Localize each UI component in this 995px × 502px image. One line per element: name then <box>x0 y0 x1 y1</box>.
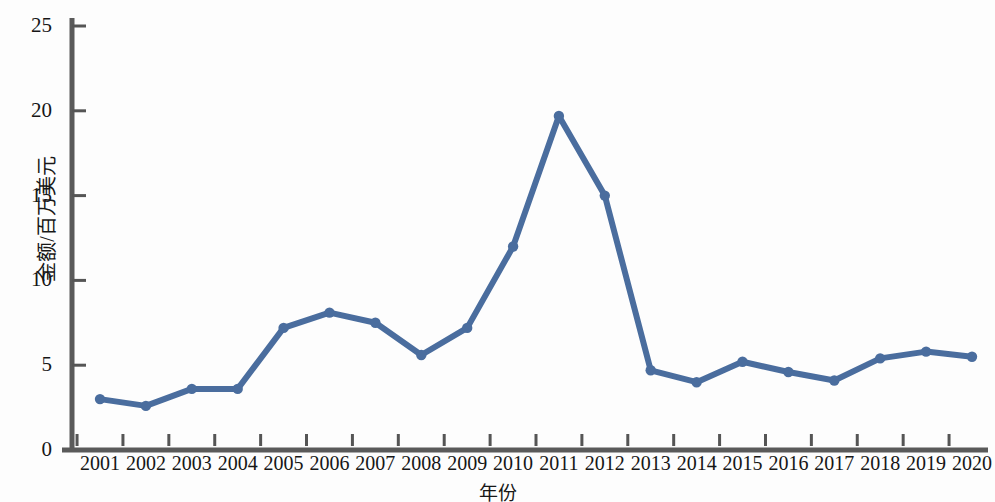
line-chart: 金额/百万美元 0510152025 200120022003200420052… <box>0 0 995 502</box>
x-axis-tick-label: 2020 <box>952 452 992 474</box>
x-axis-tick-label: 2004 <box>218 452 258 474</box>
data-point <box>737 357 747 367</box>
data-point <box>875 353 885 363</box>
x-axis-tick-label: 2009 <box>447 452 487 474</box>
x-axis-tick-label: 2018 <box>860 452 900 474</box>
data-point <box>921 346 931 356</box>
data-line <box>100 116 972 406</box>
data-point <box>691 377 701 387</box>
data-point <box>829 375 839 385</box>
data-point <box>187 384 197 394</box>
x-axis-tick-label: 2002 <box>126 452 166 474</box>
x-axis-tick-label: 2019 <box>906 452 946 474</box>
data-point <box>141 401 151 411</box>
data-markers <box>95 111 977 411</box>
data-point <box>508 241 518 251</box>
x-axis-tick-label: 2016 <box>768 452 808 474</box>
data-point <box>646 365 656 375</box>
data-point <box>600 190 610 200</box>
x-axis-title: 年份 <box>0 478 995 502</box>
x-axis-tick-label: 2008 <box>401 452 441 474</box>
plot-area <box>0 0 995 502</box>
x-axis-tick-label: 2014 <box>677 452 717 474</box>
x-axis-tick-label: 2005 <box>264 452 304 474</box>
data-point <box>967 352 977 362</box>
x-axis-tick-labels: 2001200220032004200520062007200820092010… <box>0 452 995 480</box>
x-axis-tick-label: 2007 <box>355 452 395 474</box>
x-axis-tick-label: 2003 <box>172 452 212 474</box>
x-axis-tick-label: 2011 <box>539 452 578 474</box>
data-point <box>462 323 472 333</box>
x-axis-tick-label: 2013 <box>631 452 671 474</box>
data-point <box>416 350 426 360</box>
x-axis-tick-label: 2017 <box>814 452 854 474</box>
x-axis-ticks <box>77 434 949 446</box>
data-point <box>233 384 243 394</box>
x-axis-tick-label: 2001 <box>80 452 120 474</box>
axes <box>62 18 988 450</box>
data-point <box>95 394 105 404</box>
x-axis-tick-label: 2010 <box>493 452 533 474</box>
x-axis-tick-label: 2006 <box>309 452 349 474</box>
x-axis-tick-label: 2015 <box>723 452 763 474</box>
data-point <box>324 307 334 317</box>
x-axis-tick-label: 2012 <box>585 452 625 474</box>
data-point <box>554 111 564 121</box>
data-point <box>278 323 288 333</box>
data-point <box>783 367 793 377</box>
data-point <box>370 318 380 328</box>
